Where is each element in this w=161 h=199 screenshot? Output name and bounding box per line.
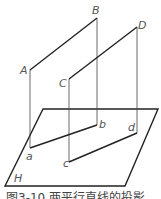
projection-cd [69,133,137,162]
projection-ab [30,125,97,148]
line-ab [30,18,97,70]
parallel-lines-projection-diagram: A B C D a b c d H 图3-10 两平行直线的投影 [0,0,161,199]
label-d: d [128,121,136,134]
label-c: c [63,157,69,170]
label-plane-h: H [14,172,22,185]
line-cd [69,27,137,79]
label-C: C [59,77,67,90]
projection-plane-h [5,109,158,186]
label-A: A [19,64,28,77]
label-D: D [138,19,146,32]
label-b: b [99,118,106,131]
label-a: a [26,150,33,163]
label-B: B [92,4,100,17]
figure-caption: 图3-10 两平行直线的投影 [6,190,145,199]
